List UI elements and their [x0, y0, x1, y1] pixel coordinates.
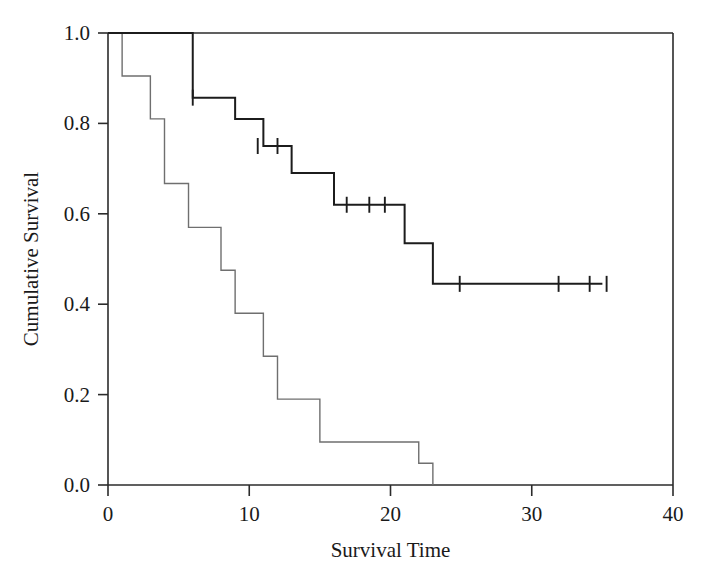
- x-axis-title: Survival Time: [331, 538, 451, 562]
- x-tick-label-0: 0: [103, 502, 114, 526]
- y-tick-label-1: 0.2: [64, 383, 90, 407]
- x-tick-label-1: 10: [239, 502, 260, 526]
- survival-chart-figure: 0.0 0.2 0.4 0.6 0.8 1.0 0 10 20 30 40 Su…: [0, 0, 722, 580]
- x-tick-label-3: 30: [521, 502, 542, 526]
- y-tick-label-5: 1.0: [64, 21, 90, 45]
- y-tick-label-3: 0.6: [64, 202, 90, 226]
- y-tick-label-4: 0.8: [64, 111, 90, 135]
- chart-canvas: 0.0 0.2 0.4 0.6 0.8 1.0 0 10 20 30 40 Su…: [0, 0, 722, 580]
- y-tick-label-0: 0.0: [64, 473, 90, 497]
- y-axis-title: Cumulative Survival: [19, 172, 43, 347]
- x-tick-label-4: 40: [663, 502, 684, 526]
- y-tick-label-2: 0.4: [64, 292, 91, 316]
- x-tick-label-2: 20: [380, 502, 401, 526]
